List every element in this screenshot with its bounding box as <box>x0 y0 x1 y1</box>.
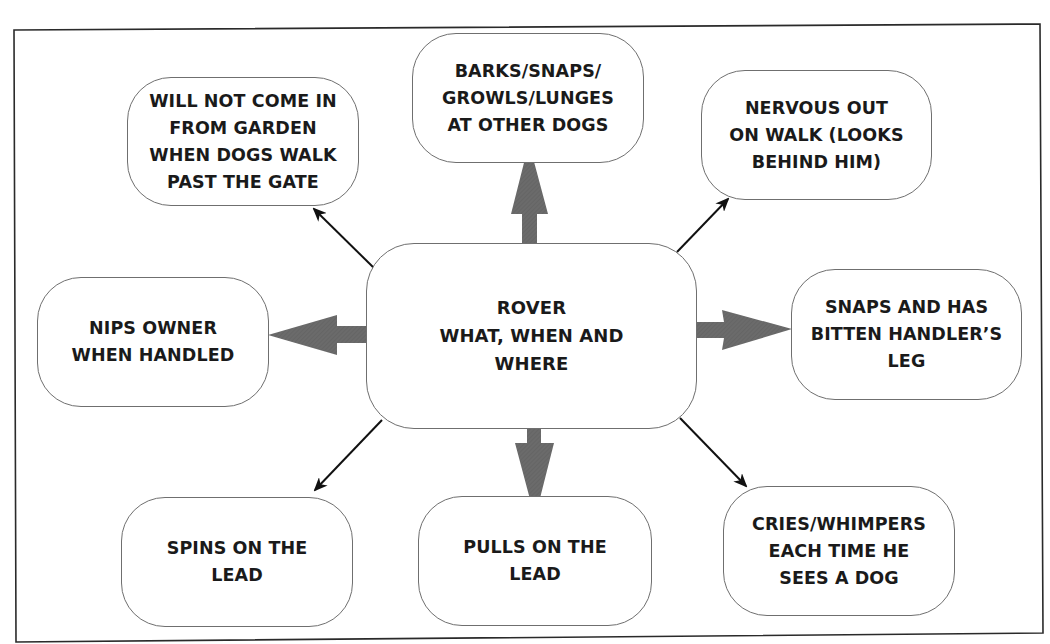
node-label: BARKS/SNAPS/ GROWLS/LUNGES AT OTHER DOGS <box>442 58 614 139</box>
node-label: SPINS ON THE LEAD <box>167 535 308 589</box>
node-will-not-come-in: WILL NOT COME IN FROM GARDEN WHEN DOGS W… <box>127 77 359 206</box>
node-label: NIPS OWNER WHEN HANDLED <box>72 315 235 369</box>
node-barks-snaps: BARKS/SNAPS/ GROWLS/LUNGES AT OTHER DOGS <box>412 33 644 163</box>
node-pulls-on-lead: PULLS ON THE LEAD <box>418 496 652 626</box>
node-label: PULLS ON THE LEAD <box>463 534 606 588</box>
thin-arrow-top-left <box>314 209 374 268</box>
thick-arrow-left <box>268 315 380 355</box>
node-cries-whimpers: CRIES/WHIMPERS EACH TIME HE SEES A DOG <box>723 486 955 616</box>
thin-arrow-top-right <box>677 199 728 252</box>
thin-arrow-bottom-left <box>315 420 382 490</box>
node-label: CRIES/WHIMPERS EACH TIME HE SEES A DOG <box>752 511 926 592</box>
thin-arrow-bottom-right <box>680 418 746 486</box>
node-spins-on-lead: SPINS ON THE LEAD <box>121 497 353 627</box>
node-label: SNAPS AND HAS BITTEN HANDLER’S LEG <box>811 294 1003 375</box>
node-snaps-bitten-handler: SNAPS AND HAS BITTEN HANDLER’S LEG <box>791 269 1022 400</box>
behaviour-mind-map: WILL NOT COME IN FROM GARDEN WHEN DOGS W… <box>0 0 1050 644</box>
node-nips-owner: NIPS OWNER WHEN HANDLED <box>37 277 269 407</box>
center-label: ROVER WHAT, WHEN AND WHERE <box>439 294 623 378</box>
node-label: WILL NOT COME IN FROM GARDEN WHEN DOGS W… <box>149 88 337 196</box>
node-nervous-on-walk: NERVOUS OUT ON WALK (LOOKS BEHIND HIM) <box>701 70 932 200</box>
node-center-rover: ROVER WHAT, WHEN AND WHERE <box>366 243 697 429</box>
node-label: NERVOUS OUT ON WALK (LOOKS BEHIND HIM) <box>729 95 903 176</box>
